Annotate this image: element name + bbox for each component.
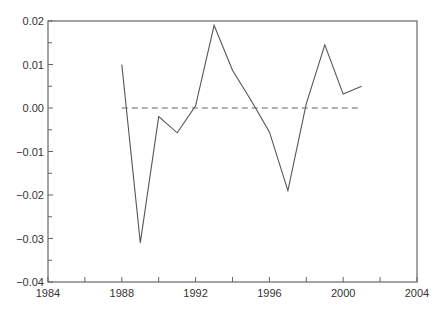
y-tick-label: −0.01 bbox=[16, 146, 44, 158]
x-tick-label: 1984 bbox=[36, 287, 60, 299]
plot-frame bbox=[48, 21, 417, 282]
y-tick-label: 0.01 bbox=[23, 59, 44, 71]
x-tick-label: 2000 bbox=[331, 287, 355, 299]
y-tick-label: −0.02 bbox=[16, 189, 44, 201]
x-tick-label: 1988 bbox=[110, 287, 134, 299]
data-line bbox=[122, 25, 362, 242]
y-tick-label: −0.03 bbox=[16, 233, 44, 245]
data-series bbox=[122, 25, 362, 242]
plot-axes bbox=[48, 21, 417, 282]
axis-tick-labels: 0.020.010.00−0.01−0.02−0.03−0.0419841988… bbox=[16, 15, 429, 299]
line-chart: 0.020.010.00−0.01−0.02−0.03−0.0419841988… bbox=[0, 0, 447, 309]
x-tick-label: 1996 bbox=[257, 287, 281, 299]
x-tick-label: 2004 bbox=[405, 287, 429, 299]
y-tick-label: 0.00 bbox=[23, 102, 44, 114]
axis-ticks bbox=[48, 21, 417, 282]
x-tick-label: 1992 bbox=[183, 287, 207, 299]
y-tick-label: 0.02 bbox=[23, 15, 44, 27]
